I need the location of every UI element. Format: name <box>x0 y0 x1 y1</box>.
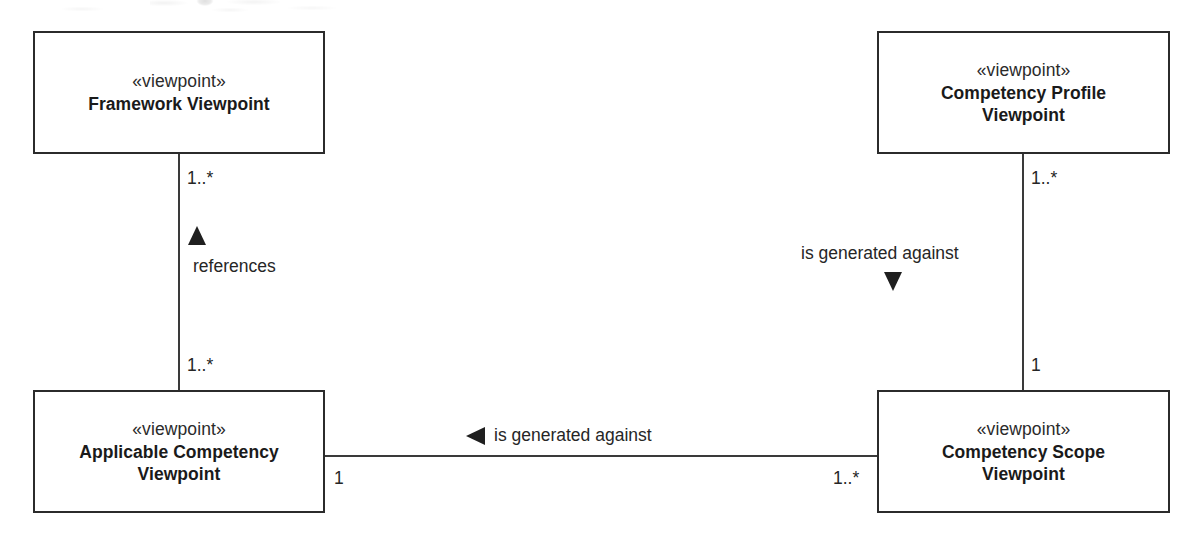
association-line-applicable-scope[interactable] <box>325 455 877 457</box>
stereotype-label-competency-scope: «viewpoint» <box>977 418 1071 440</box>
scan-artifact-top-secondary <box>62 5 362 14</box>
association-label-profile-scope: is generated against <box>801 245 959 263</box>
class-box-framework-viewpoint[interactable]: «viewpoint» Framework Viewpoint <box>33 31 325 154</box>
uml-diagram-canvas: 1..* 1..* references 1..* 1 is generated… <box>0 0 1188 544</box>
class-name-applicable-competency-viewpoint: Applicable Competency Viewpoint <box>79 441 278 485</box>
multiplicity-applicable-right: 1 <box>334 470 344 488</box>
association-line-references[interactable] <box>178 154 180 390</box>
class-name-framework-viewpoint: Framework Viewpoint <box>88 93 270 115</box>
multiplicity-scope-left: 1..* <box>833 470 859 488</box>
multiplicity-profile-lower: 1..* <box>1031 170 1057 188</box>
class-box-competency-profile-viewpoint[interactable]: «viewpoint» Competency Profile Viewpoint <box>877 31 1170 154</box>
stereotype-label-framework: «viewpoint» <box>132 70 226 92</box>
class-name-competency-profile-viewpoint: Competency Profile Viewpoint <box>941 82 1106 126</box>
navigation-arrow-up-icon <box>188 226 206 245</box>
multiplicity-framework-lower: 1..* <box>187 170 213 188</box>
multiplicity-applicable-upper: 1..* <box>187 357 213 375</box>
class-box-competency-scope-viewpoint[interactable]: «viewpoint» Competency Scope Viewpoint <box>877 390 1170 513</box>
multiplicity-scope-upper: 1 <box>1031 357 1041 375</box>
class-box-applicable-competency-viewpoint[interactable]: «viewpoint» Applicable Competency Viewpo… <box>33 390 325 513</box>
stereotype-label-competency-profile: «viewpoint» <box>977 59 1071 81</box>
stereotype-label-applicable-competency: «viewpoint» <box>132 418 226 440</box>
association-label-applicable-scope: is generated against <box>494 427 652 445</box>
association-line-profile-scope[interactable] <box>1022 154 1024 390</box>
navigation-arrow-left-icon <box>466 427 485 445</box>
navigation-arrow-down-icon <box>884 272 902 291</box>
class-name-competency-scope-viewpoint: Competency Scope Viewpoint <box>942 441 1105 485</box>
association-label-references: references <box>193 258 276 276</box>
